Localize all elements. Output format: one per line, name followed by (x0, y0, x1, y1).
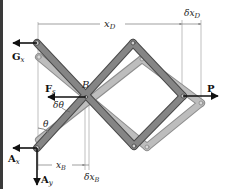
label-Fs: Fs (45, 83, 56, 96)
label-B: B (81, 79, 89, 90)
label-Gx: Gx (12, 51, 25, 64)
label-xB: xB (56, 160, 66, 172)
label-dtheta: δθ (53, 100, 64, 110)
label-dxD: δxD (184, 8, 201, 20)
label-theta: θ (43, 119, 49, 129)
reference-lines (38, 20, 201, 170)
label-P: P (207, 83, 215, 94)
label-xD: xD (104, 18, 116, 31)
linkage-diagram: Gx Fs B P δθ θ Ax Ay xD δxD xB δxB (0, 0, 230, 189)
label-Ay: Ay (40, 174, 54, 187)
label-Ax: Ax (7, 153, 20, 166)
label-dxB: δxB (84, 172, 100, 184)
diagram-frame: Gx Fs B P δθ θ Ax Ay xD δxD xB δxB (0, 0, 230, 189)
